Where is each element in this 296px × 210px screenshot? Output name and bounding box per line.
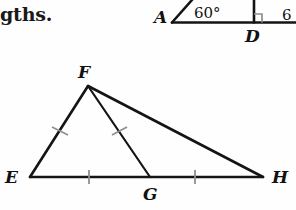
label-point-d: D	[244, 26, 260, 46]
label-point-g: G	[143, 184, 158, 204]
label-point-e: E	[4, 167, 19, 187]
top-partial-figure: A 60° 6 D	[152, 0, 296, 46]
label-point-h: H	[271, 167, 289, 187]
label-point-f: F	[77, 62, 92, 82]
angle-label-60-at-a: 60°	[194, 4, 221, 22]
angle-ray-from-a	[172, 0, 192, 23]
main-triangle-figure: E F G H	[4, 62, 289, 204]
segment-fh	[88, 86, 263, 177]
worksheet-page: gths. A 60° 6 D	[0, 0, 296, 210]
geometry-figures-svg: A 60° 6 D	[0, 0, 296, 210]
angle-label-partial-right: 6	[282, 6, 292, 24]
label-point-a: A	[152, 7, 167, 27]
